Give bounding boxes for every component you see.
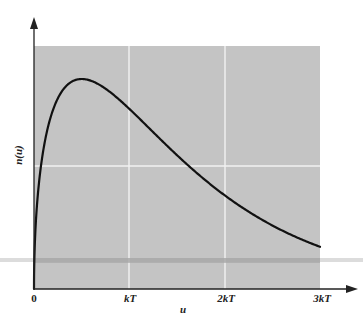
x-tick-kT: kT [124, 292, 138, 304]
chart: 0 kT 2kT 3kT u n(u) [0, 0, 363, 328]
x-tick-0: 0 [31, 292, 37, 304]
x-tick-2kT: 2kT [216, 292, 236, 304]
scan-artifact-band-plot [34, 258, 320, 263]
plot-area [34, 46, 320, 289]
y-axis-label: n(u) [12, 145, 25, 165]
x-axis-label: u [180, 303, 186, 315]
y-axis-arrow-icon [30, 17, 38, 29]
x-tick-3kT: 3kT [312, 292, 332, 304]
x-axis-arrow-icon [346, 285, 358, 293]
